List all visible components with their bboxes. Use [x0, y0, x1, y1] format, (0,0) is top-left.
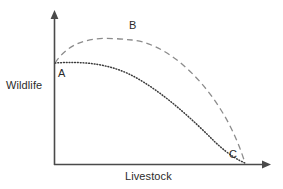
chart-figure: Wildlife Livestock A B C — [0, 0, 283, 189]
y-axis-title: Wildlife — [6, 79, 42, 91]
point-label-c: C — [229, 148, 237, 160]
x-axis-title: Livestock — [125, 170, 172, 182]
point-label-a: A — [58, 67, 65, 79]
x-axis-arrow-icon — [262, 161, 271, 169]
y-axis-arrow-icon — [51, 10, 59, 19]
dotted-curve-ac — [55, 62, 245, 163]
point-label-b: B — [129, 19, 136, 31]
chart-plot-area — [0, 0, 283, 189]
